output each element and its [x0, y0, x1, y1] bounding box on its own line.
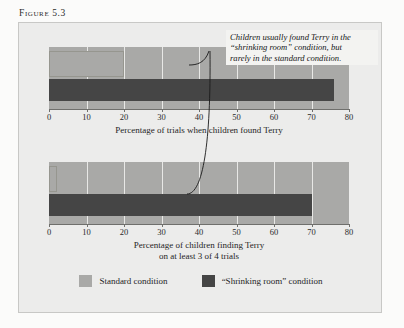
- chart1-ticklabel-80: 80: [345, 112, 354, 122]
- chart2-bar-standard: [49, 166, 57, 192]
- chart2-ticklabel-70: 70: [307, 227, 316, 237]
- chart1-caption: Percentage of trials when children found…: [34, 125, 364, 136]
- chart1-ticklabel-10: 10: [82, 112, 91, 122]
- legend-swatch-standard-icon: [79, 275, 92, 287]
- chart1-ticklabel-20: 20: [120, 112, 129, 122]
- chart-trials-found-terry: 0 10 20 30 40 50 60 70 80 Percentage of …: [34, 47, 368, 169]
- chart1-tick-row: 0 10 20 30 40 50 60 70 80: [34, 109, 364, 123]
- annotation-line-3: rarely in the standard condition.: [230, 53, 375, 63]
- chart2-ticklabel-80: 80: [345, 227, 354, 237]
- chart2-gridline-70: [312, 162, 313, 224]
- legend-swatch-shrinking-room-icon: [202, 275, 215, 287]
- chart2-ticklabel-40: 40: [195, 227, 204, 237]
- annotation-line-2: “shrinking room” condition, but: [230, 42, 375, 52]
- chart-legend: Standard condition “Shrinking room” cond…: [19, 275, 383, 287]
- chart2-caption-line2: on at least 3 of 4 trials: [34, 251, 364, 262]
- chart2-ticklabel-0: 0: [47, 227, 51, 237]
- annotation-line-1: Children usually found Terry in the: [230, 32, 375, 42]
- legend-label-shrinking-room: “Shrinking room” condition: [222, 276, 323, 286]
- legend-item-standard: Standard condition: [79, 275, 167, 287]
- chart1-bar-standard: [49, 51, 124, 77]
- chart2-ticklabel-10: 10: [82, 227, 91, 237]
- chart1-ticklabel-0: 0: [47, 112, 51, 122]
- chart1-ticklabel-60: 60: [270, 112, 279, 122]
- chart1-ticklabel-40: 40: [195, 112, 204, 122]
- chart1-bar-shrinking-room: [49, 79, 334, 101]
- chart2-caption-line1: Percentage of children finding Terry: [34, 240, 364, 251]
- legend-label-standard: Standard condition: [99, 276, 167, 286]
- chart2-tick-row: 0 10 20 30 40 50 60 70 80: [34, 224, 364, 238]
- figure-panel: 0 10 20 30 40 50 60 70 80 Percentage of …: [18, 22, 382, 313]
- chart2-plot-area: [49, 162, 349, 224]
- chart1-ticklabel-30: 30: [157, 112, 166, 122]
- annotation-callout: Children usually found Terry in the “shr…: [226, 30, 378, 65]
- chart2-ticklabel-60: 60: [270, 227, 279, 237]
- figure-root: Figure 5.3: [0, 0, 404, 328]
- chart1-ticklabel-50: 50: [232, 112, 241, 122]
- chart2-ticklabel-30: 30: [157, 227, 166, 237]
- chart2-ticklabel-50: 50: [232, 227, 241, 237]
- legend-item-shrinking-room: “Shrinking room” condition: [202, 275, 323, 287]
- figure-label: Figure 5.3: [19, 8, 66, 18]
- chart2-caption: Percentage of children finding Terry on …: [34, 240, 364, 262]
- chart1-ticklabel-70: 70: [307, 112, 316, 122]
- chart2-bar-shrinking-room: [49, 194, 312, 216]
- chart2-ticklabel-20: 20: [120, 227, 129, 237]
